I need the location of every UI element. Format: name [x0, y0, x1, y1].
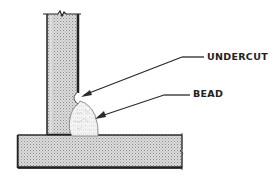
base-plate [18, 133, 184, 170]
arrowhead-icon [95, 111, 106, 119]
arrowhead-icon [81, 90, 92, 97]
undercut-leader [81, 57, 204, 97]
undercut-label: UNDERCUT [207, 52, 268, 62]
bead-label: BEAD [193, 89, 223, 99]
bead-leader [95, 95, 190, 119]
weld-joint-diagram [0, 0, 276, 180]
